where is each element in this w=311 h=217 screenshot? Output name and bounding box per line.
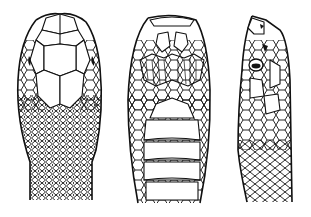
ventral-head-view	[125, 15, 215, 205]
snake-heads-illustration	[0, 0, 311, 217]
dorsal-head-view	[15, 14, 110, 205]
lateral-head-view	[236, 16, 294, 205]
